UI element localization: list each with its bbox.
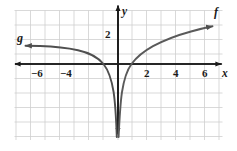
y-tick-label-2: 2 (105, 29, 111, 40)
x-axis-label: x (222, 68, 228, 80)
curve-label-f: f (214, 6, 218, 18)
curve-label-g: g (17, 32, 23, 44)
graph-figure: −6 −4 2 4 6 2 x y f g (0, 0, 237, 151)
x-tick-label-neg4: −4 (60, 68, 72, 79)
x-tick-label-6: 6 (202, 68, 208, 79)
curve-f (119, 26, 213, 137)
x-tick-label-neg6: −6 (31, 68, 43, 79)
x-tick-label-2: 2 (144, 68, 150, 79)
y-axis-label: y (122, 6, 127, 18)
x-tick-label-4: 4 (173, 68, 179, 79)
